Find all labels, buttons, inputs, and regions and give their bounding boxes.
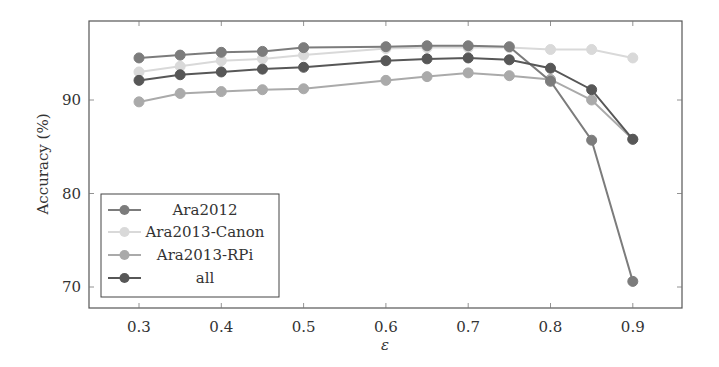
data-point-marker <box>257 64 267 74</box>
data-point-marker <box>504 71 514 81</box>
data-point-marker <box>134 75 144 85</box>
data-point-marker <box>381 56 391 66</box>
data-point-marker <box>587 85 597 95</box>
data-point-marker <box>299 84 309 94</box>
data-point-marker <box>463 68 473 78</box>
y-tick-label: 90 <box>62 91 81 109</box>
y-axis-label: Accuracy (%) <box>34 113 52 215</box>
data-point-marker <box>257 46 267 56</box>
legend-label: Ara2013-Canon <box>145 223 265 241</box>
x-axis-label: ε <box>381 336 389 354</box>
y-tick-label: 80 <box>62 185 81 203</box>
x-tick-label: 0.5 <box>292 318 316 336</box>
x-tick-label: 0.9 <box>621 318 645 336</box>
data-point-marker <box>504 42 514 52</box>
data-point-marker <box>216 67 226 77</box>
data-point-marker <box>587 135 597 145</box>
data-point-marker <box>257 85 267 95</box>
legend-label: all <box>196 269 215 287</box>
data-point-marker <box>546 76 556 86</box>
data-point-marker <box>422 54 432 64</box>
x-tick-label: 0.4 <box>209 318 233 336</box>
data-point-marker <box>504 55 514 65</box>
legend-marker-icon <box>120 273 130 283</box>
legend-label: Ara2012 <box>171 201 237 219</box>
data-point-marker <box>587 95 597 105</box>
data-point-marker <box>546 45 556 55</box>
data-point-marker <box>175 50 185 60</box>
data-point-marker <box>216 87 226 97</box>
data-point-marker <box>299 43 309 53</box>
data-point-marker <box>628 134 638 144</box>
x-tick-label: 0.6 <box>374 318 398 336</box>
y-tick-label: 70 <box>62 278 81 296</box>
legend-marker-icon <box>120 250 130 260</box>
data-point-marker <box>463 53 473 63</box>
legend-marker-icon <box>120 227 130 237</box>
data-point-marker <box>216 47 226 57</box>
data-point-marker <box>422 41 432 51</box>
data-point-marker <box>628 276 638 286</box>
data-point-marker <box>381 75 391 85</box>
series-line <box>139 58 633 139</box>
series-ara2013-rpi <box>134 68 638 144</box>
x-tick-label: 0.8 <box>539 318 563 336</box>
data-point-marker <box>463 41 473 51</box>
data-point-marker <box>628 53 638 63</box>
data-point-marker <box>134 53 144 63</box>
data-point-marker <box>422 72 432 82</box>
data-point-marker <box>587 45 597 55</box>
legend-marker-icon <box>120 205 130 215</box>
data-point-marker <box>175 88 185 98</box>
x-tick-label: 0.7 <box>456 318 480 336</box>
legend: Ara2012Ara2013-CanonAra2013-RPiall <box>101 194 279 297</box>
data-point-marker <box>134 97 144 107</box>
legend-label: Ara2013-RPi <box>156 246 254 264</box>
x-tick-label: 0.3 <box>127 318 151 336</box>
data-point-marker <box>299 62 309 72</box>
line-chart: 0.30.40.50.60.70.80.9708090 ε Accuracy (… <box>0 0 719 367</box>
data-point-marker <box>175 70 185 80</box>
data-point-marker <box>546 63 556 73</box>
data-point-marker <box>381 42 391 52</box>
